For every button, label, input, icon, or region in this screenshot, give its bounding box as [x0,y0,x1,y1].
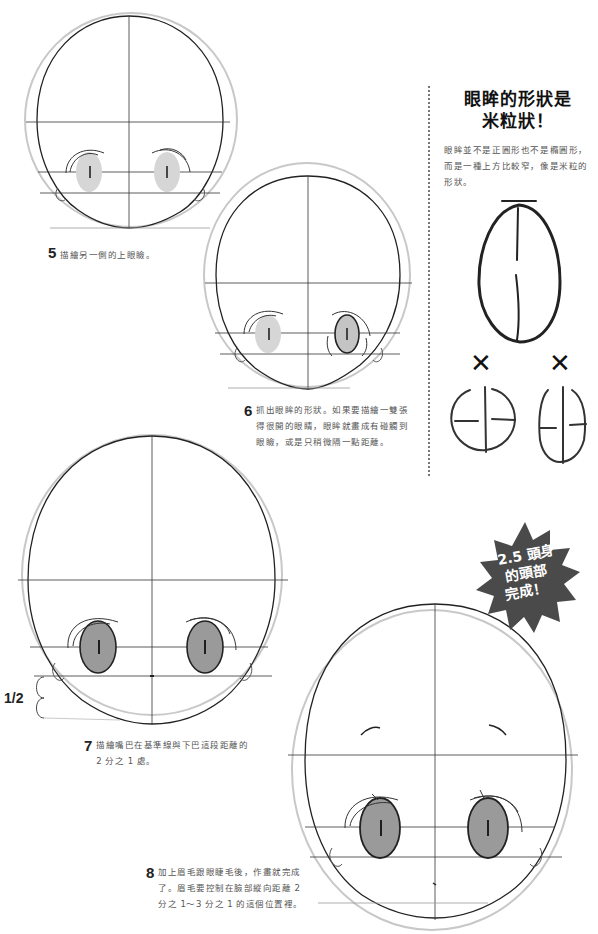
wrong-mark-2: ✕ [549,348,571,378]
wrong-mark-1: ✕ [470,348,492,378]
tip-body: 眼眸並不是正圓形也不是橢圓形，而是一種上方比較窄，像是米粒的形狀。 [444,142,592,190]
head-outline-6 [204,163,412,390]
step-7-number: 7 [84,737,92,769]
step-6-text: 抓出眼眸的形狀。如果要描繪一雙張得很開的眼睛，眼眸就畫成有碰觸到眼瞼，或是只稍微… [256,402,416,450]
tip-title-line1: 眼眸的形狀是 [444,88,592,110]
head-outline-8 [288,604,578,930]
rice-grain-eye-diagram [479,201,560,342]
step-5-number: 5 [48,244,56,261]
half-bracket [37,677,45,718]
step-5-caption: 5描繪另一側的上眼瞼。 [48,243,218,263]
step-6-caption: 6抓出眼眸的形狀。如果要描繪一雙張得很開的眼睛，眼眸就畫成有碰觸到眼瞼，或是只稍… [244,402,416,450]
step-8-number: 8 [146,864,154,912]
step-7-text: 描繪嘴巴在基準線與下巴這段距離的 2 分之 1 處。 [96,737,249,769]
wrong-circle-diagram [451,387,515,452]
step-8-text: 加上眉毛跟眼睫毛後，作畫就完成了。眉毛要控制在臉部縱向距離 2 分之 1～3 分… [158,864,306,912]
sidebar-divider [428,86,430,476]
badge: 2.5 頭身 的頭部 完成！ [486,546,566,600]
step-7-caption: 7描繪嘴巴在基準線與下巴這段距離的 2 分之 1 處。 [84,737,249,769]
tip-title-line2: 米粒狀！ [444,110,592,132]
half-measure-label: 1/2 [4,690,23,706]
step-5-text: 描繪另一側的上眼瞼。 [60,250,155,260]
head-outline-7 [18,435,288,724]
step-8-caption: 8加上眉毛跟眼睫毛後，作畫就完成了。眉毛要控制在臉部縱向距離 2 分之 1～3 … [146,864,306,912]
wrong-oval-diagram [539,387,586,463]
step-6-number: 6 [244,402,252,450]
sidebar-tip: 眼眸的形狀是 米粒狀！ 眼眸並不是正圓形也不是橢圓形，而是一種上方比較窄，像是米… [444,88,592,190]
head-outline-5 [25,13,237,228]
